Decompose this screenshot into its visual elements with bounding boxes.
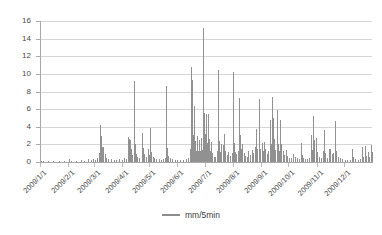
data-spike (372, 152, 373, 162)
y-tick-label: 6 (5, 105, 31, 113)
y-tick-label: 4 (5, 123, 31, 131)
x-tick-mark (177, 163, 178, 167)
x-tick-mark (68, 163, 69, 167)
y-tick-label: 12 (5, 52, 31, 60)
series-mm-per-5min (40, 21, 372, 162)
chart-legend: mm/5min (0, 210, 382, 220)
rainfall-time-series-chart: 0246810121416 2009/1/12009/2/12009/3/120… (0, 0, 382, 235)
y-tick-mark (36, 92, 40, 93)
x-tick-mark (288, 163, 289, 167)
y-tick-mark (36, 56, 40, 57)
x-tick-mark (261, 163, 262, 167)
plot-area (40, 21, 372, 162)
x-tick-mark (94, 163, 95, 167)
y-axis-line (40, 21, 41, 163)
x-tick-mark (233, 163, 234, 167)
x-tick-mark (122, 163, 123, 167)
x-axis-line (40, 162, 373, 163)
x-tick-mark (40, 163, 41, 167)
x-tick-mark (317, 163, 318, 167)
y-tick-mark (36, 109, 40, 110)
y-tick-label: 10 (5, 70, 31, 78)
legend-line-swatch (162, 214, 180, 216)
y-tick-label: 16 (5, 17, 31, 25)
y-tick-mark (36, 127, 40, 128)
x-tick-mark (149, 163, 150, 167)
x-tick-mark (205, 163, 206, 167)
legend-label-mm-per-5min: mm/5min (185, 210, 220, 220)
x-tick-mark (344, 163, 345, 167)
y-tick-label: 8 (5, 88, 31, 96)
y-tick-label: 2 (5, 140, 31, 148)
y-tick-mark (36, 39, 40, 40)
y-tick-label: 0 (5, 158, 31, 166)
y-tick-label: 14 (5, 35, 31, 43)
y-tick-mark (36, 74, 40, 75)
y-tick-mark (36, 21, 40, 22)
y-tick-mark (36, 144, 40, 145)
